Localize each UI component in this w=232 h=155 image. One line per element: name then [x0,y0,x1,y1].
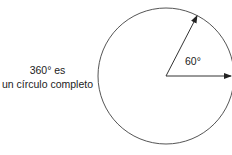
caption-line-1: 360° es [0,63,95,77]
angle-label: 60° [185,55,201,67]
caption-line-2: un círculo completo [0,77,95,91]
full-circle-caption: 360° es un círculo completo [0,63,95,91]
ray-60deg-arrow [166,16,197,76]
